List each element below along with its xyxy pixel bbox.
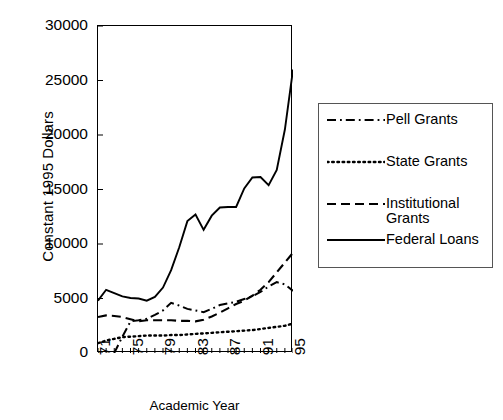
plot-area bbox=[97, 25, 292, 352]
legend-item[interactable]: State Grants bbox=[327, 154, 493, 169]
legend-item-label: State Grants bbox=[385, 154, 467, 169]
x-axis-tick-label: 79 bbox=[162, 338, 178, 378]
legend-line-sample-icon bbox=[327, 155, 385, 169]
x-axis-tick-label: 83 bbox=[195, 338, 211, 378]
x-axis-tick-label: 71 bbox=[97, 338, 113, 378]
x-axis-tick-label: 95 bbox=[292, 338, 308, 378]
y-axis-tick-label: 10000 bbox=[26, 235, 88, 251]
legend-item[interactable]: Institutional Grants bbox=[327, 196, 493, 226]
y-axis-tick-label: 5000 bbox=[26, 290, 88, 306]
x-axis-tick-labels: 71757983879195 bbox=[97, 352, 292, 402]
x-axis-title: Academic Year bbox=[97, 398, 292, 413]
y-axis-tick-label: 20000 bbox=[26, 126, 88, 142]
chart-legend: Pell GrantsState GrantsInstitutional Gra… bbox=[318, 103, 493, 268]
legend-item[interactable]: Pell Grants bbox=[327, 112, 493, 127]
x-axis-tick-label: 87 bbox=[227, 338, 243, 378]
series-line-federal-loans bbox=[98, 70, 293, 301]
y-axis-tick-labels: 300002500020000150001000050000 bbox=[22, 0, 88, 420]
legend-item-label: Institutional Grants bbox=[385, 196, 459, 226]
y-axis-tick-label: 0 bbox=[26, 344, 88, 360]
x-axis-tick-label: 75 bbox=[130, 338, 146, 378]
legend-item-label: Federal Loans bbox=[385, 232, 479, 247]
legend-item-label: Pell Grants bbox=[385, 112, 458, 127]
legend-item[interactable]: Federal Loans bbox=[327, 232, 493, 247]
chart-figure: Constant 1995 Dollars 300002500020000150… bbox=[0, 0, 503, 420]
legend-line-sample-icon bbox=[327, 233, 385, 247]
y-axis-tick-label: 15000 bbox=[26, 181, 88, 197]
plot-lines bbox=[98, 26, 293, 353]
legend-line-sample-icon bbox=[327, 197, 385, 211]
y-axis-tick-label: 25000 bbox=[26, 72, 88, 88]
y-axis-tick-label: 30000 bbox=[26, 17, 88, 33]
x-axis-tick-label: 91 bbox=[260, 338, 276, 378]
legend-line-sample-icon bbox=[327, 113, 385, 127]
